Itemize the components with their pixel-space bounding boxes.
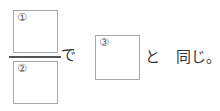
denominator-answer-box[interactable]: ② (13, 61, 58, 104)
particle-de: で (61, 47, 76, 63)
denominator-box-label: ② (17, 63, 27, 75)
numerator-answer-box[interactable]: ① (13, 10, 58, 53)
fraction-bar (9, 56, 61, 58)
suffix-text: 同じ。 (176, 49, 220, 65)
particle-to: と (145, 49, 160, 65)
result-answer-box[interactable]: ③ (95, 35, 140, 80)
numerator-box-label: ① (17, 12, 27, 24)
result-box-label: ③ (99, 37, 109, 49)
